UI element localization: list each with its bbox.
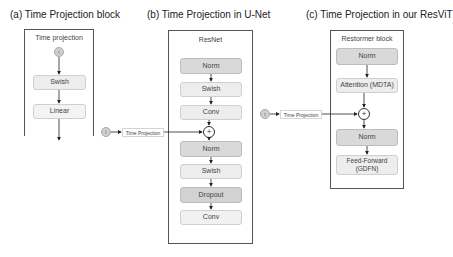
time-input-icon: t — [54, 47, 64, 57]
panel-a-title: (a) Time Projection block — [10, 9, 120, 20]
block-attention-mdta: Attention (MDTA) — [336, 78, 398, 93]
add-icon-c: + — [358, 108, 370, 120]
panel-c-title: (c) Time Projection in our ResViT — [306, 9, 453, 20]
block-swish-1: Swish — [180, 82, 242, 97]
panel-b-title: (b) Time Projection in U-Net — [147, 9, 270, 20]
resnet-label: ResNet — [169, 36, 252, 43]
time-input-icon-b: t — [101, 127, 111, 137]
block-norm-2: Norm — [180, 141, 242, 157]
block-dropout: Dropout — [180, 187, 242, 203]
block-linear: Linear — [33, 104, 86, 119]
block-norm-c1: Norm — [336, 48, 398, 65]
time-projection-label: Time projection — [25, 34, 93, 41]
time-projection-tag-c: Time Projection — [280, 110, 322, 119]
block-norm-1: Norm — [180, 58, 242, 74]
add-icon: + — [203, 126, 215, 138]
block-swish-2: Swish — [180, 164, 242, 179]
time-projection-tag-b: Time Projection — [122, 128, 164, 137]
time-input-icon-c: t — [260, 109, 270, 119]
restormer-label: Restormer block — [331, 35, 403, 42]
block-swish: Swish — [33, 75, 86, 90]
block-conv-1: Conv — [180, 105, 242, 120]
block-conv-2: Conv — [180, 210, 242, 225]
block-norm-c2: Norm — [336, 129, 398, 146]
block-feed-forward-gdfn: Feed-Forward (GDFN) — [336, 155, 398, 175]
